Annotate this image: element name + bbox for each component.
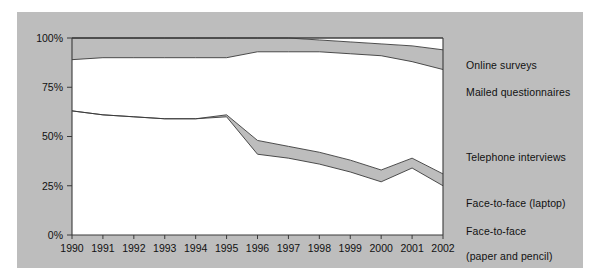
x-tick-label-1991: 1991 <box>91 242 115 254</box>
x-tick-label-1999: 1999 <box>339 242 363 254</box>
x-tick-label-1995: 1995 <box>215 242 239 254</box>
legend-label-face-to-face-paper-line2: (paper and pencil) <box>466 250 552 262</box>
legend-item-face-to-face-paper: Face-to-face (paper and pencil) <box>454 212 553 275</box>
y-tick-label-25: 25% <box>42 180 63 192</box>
x-tick-label-1993: 1993 <box>153 242 177 254</box>
x-tick-label-2000: 2000 <box>369 242 393 254</box>
legend-label-mailed-questionnaires: Mailed questionnaires <box>466 86 570 98</box>
x-tick-label-1994: 1994 <box>184 242 208 254</box>
chart-figure-panel: 0%25%50%75%100%1990199119921993199419951… <box>17 12 583 268</box>
legend-label-online-surveys: Online surveys <box>466 59 537 71</box>
x-tick-label-1997: 1997 <box>277 242 301 254</box>
x-tick-label-1998: 1998 <box>308 242 332 254</box>
legend-label-face-to-face-laptop: Face-to-face (laptop) <box>466 197 566 209</box>
x-tick-label-1990: 1990 <box>60 242 84 254</box>
y-tick-label-75: 75% <box>42 81 63 93</box>
x-tick-label-1992: 1992 <box>122 242 146 254</box>
y-tick-label-50: 50% <box>42 130 63 142</box>
x-tick-label-2002: 2002 <box>431 242 455 254</box>
legend-label-face-to-face-paper-line1: Face-to-face <box>466 225 526 237</box>
legend-label-telephone-interviews: Telephone interviews <box>466 151 566 163</box>
x-tick-label-2001: 2001 <box>400 242 424 254</box>
y-tick-label-0: 0% <box>48 229 63 241</box>
y-tick-label-100: 100% <box>36 32 63 44</box>
x-tick-label-1996: 1996 <box>246 242 270 254</box>
legend-item-mailed-questionnaires: Mailed questionnaires <box>454 73 570 111</box>
legend-item-telephone-interviews: Telephone interviews <box>454 138 566 176</box>
